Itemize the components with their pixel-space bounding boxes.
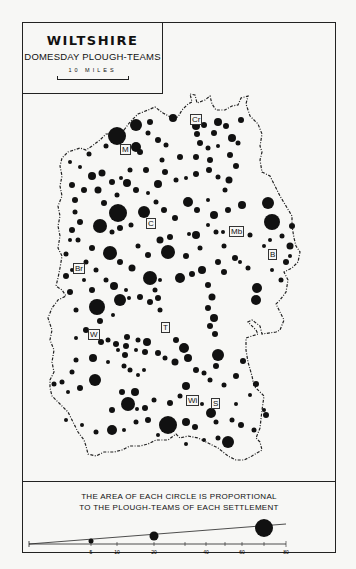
scale-label: 10 MILES <box>57 67 129 73</box>
legend-tick-20: 20 <box>151 549 157 554</box>
place-label-mb: Mb <box>229 226 244 237</box>
map-subtitle: DOMESDAY PLOUGH-TEAMS <box>23 51 162 62</box>
legend: THE AREA OF EACH CIRCLE IS PROPORTIONAL … <box>22 481 336 553</box>
scale-bar-line <box>57 76 129 80</box>
legend-tick-80: 80 <box>283 549 289 554</box>
place-label-cr: Cr <box>190 114 202 125</box>
legend-scale: 5 10 20 40 60 80 <box>22 482 336 554</box>
title-box: WILTSHIRE DOMESDAY PLOUGH-TEAMS 10 MILES <box>22 22 163 94</box>
place-label-t: T <box>161 322 170 333</box>
legend-circle-5 <box>89 539 94 544</box>
map-title: WILTSHIRE <box>23 33 162 48</box>
legend-circle-70 <box>255 519 273 537</box>
place-label-w: W <box>88 329 100 340</box>
legend-circle-20 <box>150 532 159 541</box>
place-label-s: S <box>211 398 220 409</box>
legend-tick-5: 5 <box>90 549 93 554</box>
scale-bar: 10 MILES <box>57 70 129 80</box>
legend-tick-60: 60 <box>239 549 245 554</box>
legend-tick-40: 40 <box>203 549 209 554</box>
place-label-br: Br <box>73 263 85 274</box>
place-label-b: B <box>268 249 277 260</box>
place-label-c: C <box>146 218 156 229</box>
place-label-m: M <box>120 144 131 155</box>
county-boundary <box>48 94 300 460</box>
legend-tick-10: 10 <box>114 549 120 554</box>
settlement-circles <box>52 114 296 448</box>
place-label-wi: Wi <box>186 395 199 406</box>
